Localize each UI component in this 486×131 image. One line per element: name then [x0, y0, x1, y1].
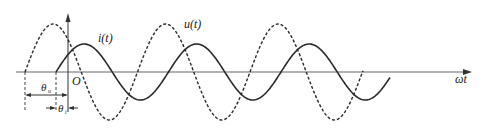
arrow-left-icon — [25, 93, 31, 97]
y-axis-arrow-icon — [66, 13, 71, 22]
voltage-label: u(t) — [184, 17, 201, 31]
current-label: i(t) — [98, 31, 113, 45]
arrow-left-icon — [68, 106, 74, 110]
theta-u-label: θ — [41, 81, 47, 93]
arrow-right-icon — [50, 106, 56, 110]
theta-i-subscript: i — [65, 109, 67, 115]
arrow-right-icon — [62, 93, 68, 97]
x-axis-label: ωt — [455, 72, 467, 86]
theta-u-subscript: u — [48, 88, 51, 94]
origin-label: O — [72, 74, 81, 88]
waveform-diagram: i(t) u(t) O ωt θ u θ i — [0, 0, 486, 131]
theta-i-label: θ — [58, 102, 64, 114]
